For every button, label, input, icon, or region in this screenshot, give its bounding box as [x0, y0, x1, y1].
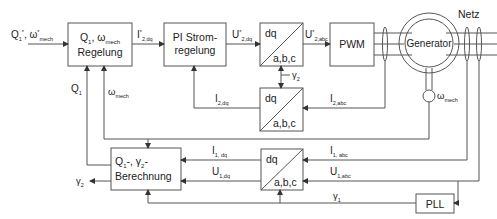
berechnung-label: Q1-, γ2- Berechnung — [115, 155, 172, 183]
dq-mid-label: dq — [265, 92, 277, 105]
pll-label: PLL — [416, 198, 454, 211]
i2dq-label: I2,dq — [215, 94, 229, 107]
i1dq-label: I1, dq — [212, 146, 227, 159]
pwm-label: PWM — [330, 38, 374, 51]
abc-bot-label: a,b,c — [274, 176, 297, 189]
u2dq-ref-label: U*2,dq — [232, 30, 252, 43]
dq-bot-label: dq — [266, 153, 278, 166]
gamma2-top-label: γ2 — [292, 70, 300, 82]
netz-label: Netz — [458, 9, 480, 20]
gamma1-label: γ1 — [333, 191, 341, 203]
omega-mech-gen-label: ωmech — [437, 91, 458, 103]
omega-mech-left-label: ωmech — [108, 87, 129, 99]
abc-mid-label: a,b,c — [273, 117, 296, 130]
i1abc-label: I1, abc — [330, 146, 348, 159]
u1dq-label: U1,dq — [212, 167, 230, 180]
q1-label: Q1 — [71, 84, 82, 97]
pi-label: PI Strom-regelung — [164, 31, 226, 56]
i2abc-label: I2,abc — [330, 94, 346, 107]
abc-top-label: a,b,c — [273, 52, 296, 65]
gamma2-out-label: γ2 — [76, 176, 84, 188]
i2dq-ref-label: I*2,dq — [137, 30, 153, 43]
regelung-label: Q1, ωmech Regelung — [68, 31, 132, 59]
generator-label: Generator — [399, 38, 459, 50]
u2abc-ref-label: U*2,abc — [305, 30, 328, 43]
dq-top-label: dq — [265, 27, 277, 40]
input-ref-label: Q1*, ω*mech — [11, 30, 53, 43]
u1abc-label: U1,abc — [330, 167, 351, 180]
